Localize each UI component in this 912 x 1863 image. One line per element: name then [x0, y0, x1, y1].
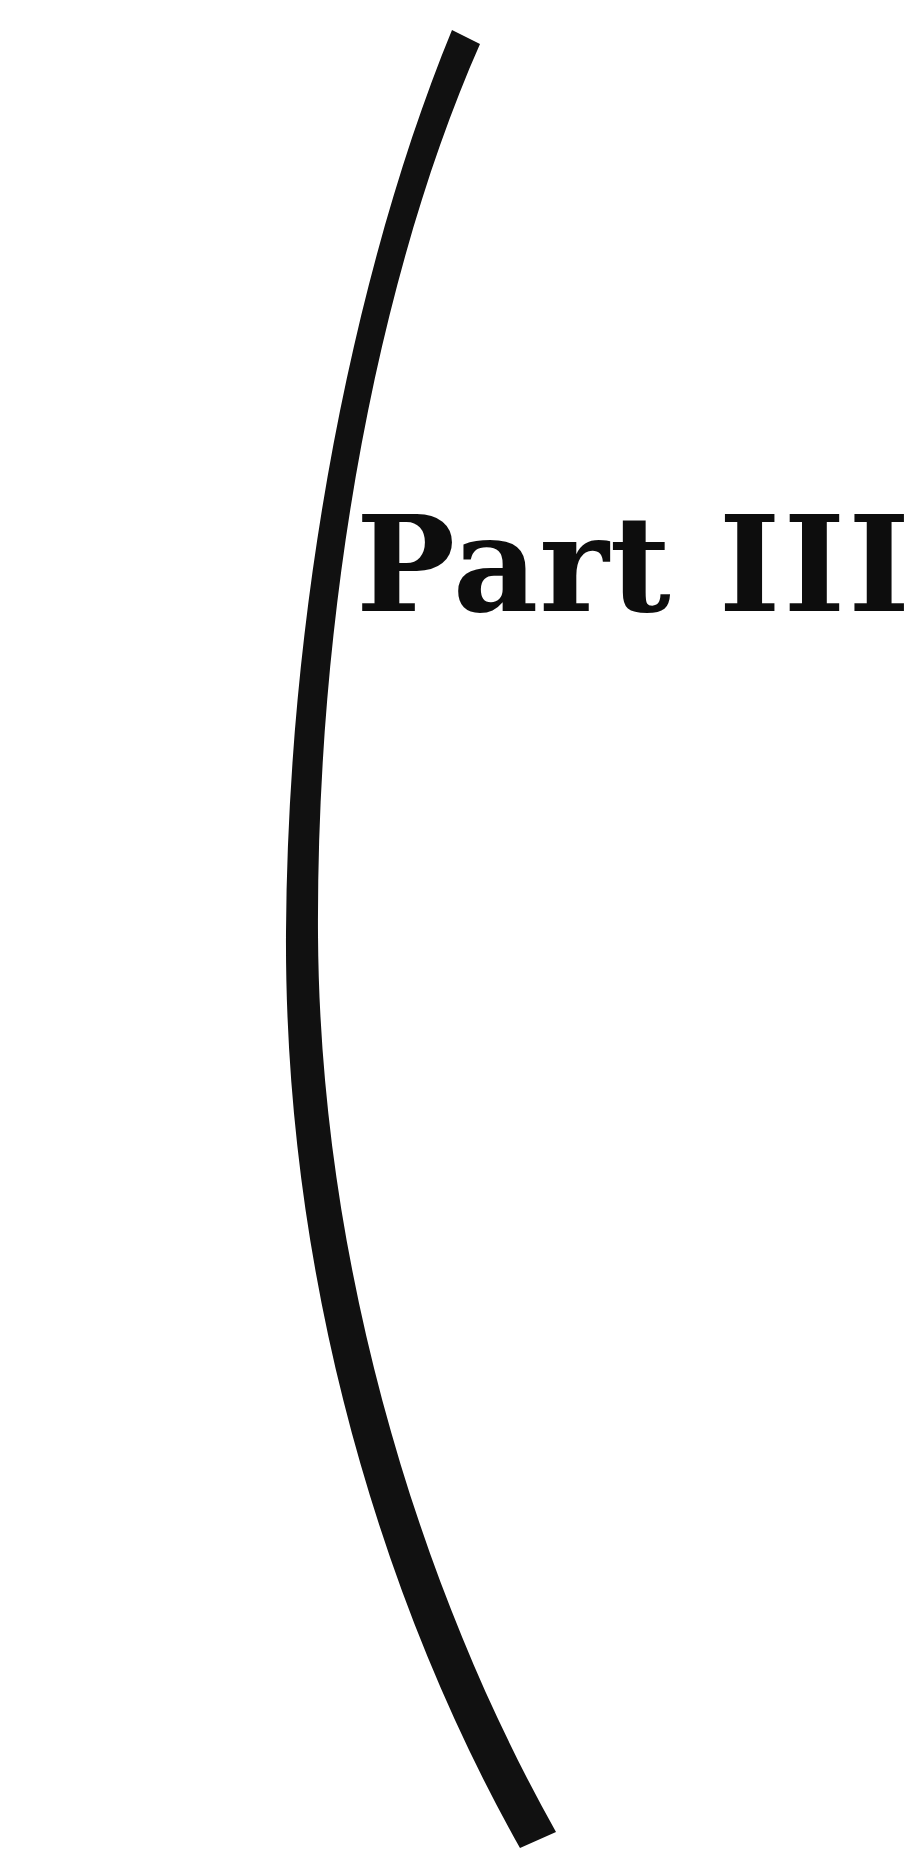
- page-title-numeral: III: [719, 487, 912, 642]
- curved-arc-rule: [0, 0, 912, 1863]
- page-title: Part III: [356, 500, 836, 630]
- part-divider-page: Part III: [0, 0, 912, 1863]
- page-title-word: Part: [356, 487, 672, 642]
- arc-path: [286, 30, 556, 1848]
- page-title-space: [672, 487, 719, 642]
